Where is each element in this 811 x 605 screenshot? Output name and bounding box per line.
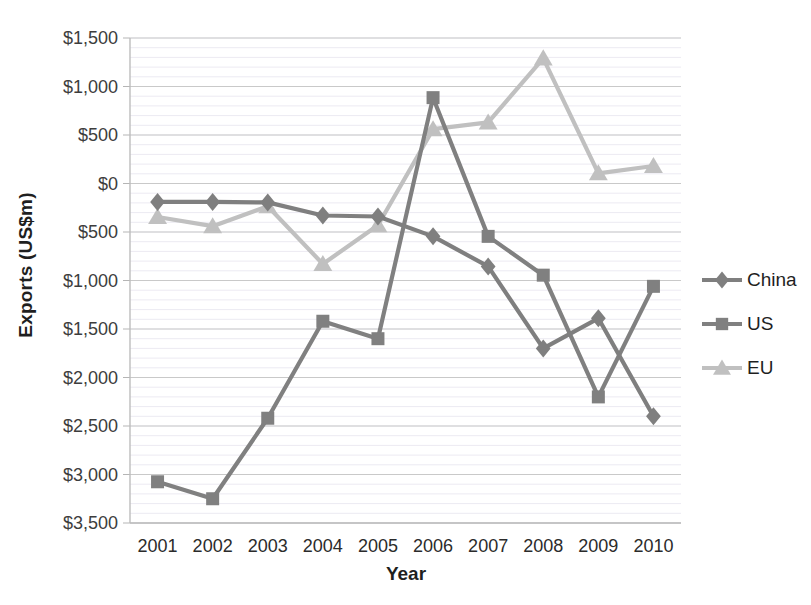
chart-legend: ChinaUSEU xyxy=(700,258,808,390)
x-axis-tick-label: 2008 xyxy=(523,536,563,557)
legend-label-china: China xyxy=(744,269,797,291)
legend-label-us: US xyxy=(744,313,773,335)
line-chart: Exports (US$m) $1,500$1,000$500$0$500$1,… xyxy=(0,0,811,605)
series-line-us xyxy=(158,98,654,499)
x-axis-tick-label: 2007 xyxy=(468,536,508,557)
marker-square xyxy=(371,332,384,345)
x-axis-tick-label: 2005 xyxy=(358,536,398,557)
legend-swatch-us xyxy=(700,313,744,335)
series-line-eu xyxy=(158,58,654,264)
x-axis-title: Year xyxy=(130,563,682,585)
marker-square xyxy=(151,475,164,488)
legend-swatch-china xyxy=(700,269,744,291)
marker-square xyxy=(592,390,605,403)
legend-item-us[interactable]: US xyxy=(700,302,808,346)
marker-diamond xyxy=(150,193,165,211)
major-gridlines xyxy=(123,38,681,523)
x-axis-tick-label: 2003 xyxy=(248,536,288,557)
legend-label-eu: EU xyxy=(744,357,773,379)
x-axis-tick-label: 2010 xyxy=(633,536,673,557)
x-axis-tick-label: 2004 xyxy=(303,536,343,557)
series-eu xyxy=(148,49,663,271)
plot-area xyxy=(0,0,811,605)
legend-marker-icon xyxy=(700,313,744,335)
x-axis-tick-label: 2001 xyxy=(138,536,178,557)
marker-square xyxy=(537,269,550,282)
marker-square xyxy=(716,318,728,330)
series-us xyxy=(151,91,660,505)
marker-square xyxy=(427,91,440,104)
x-axis-tick-label: 2002 xyxy=(193,536,233,557)
marker-diamond xyxy=(715,271,729,288)
marker-diamond xyxy=(205,193,220,211)
marker-square xyxy=(316,315,329,328)
x-axis-tick-label: 2009 xyxy=(578,536,618,557)
legend-item-eu[interactable]: EU xyxy=(700,346,808,390)
legend-item-china[interactable]: China xyxy=(700,258,808,302)
x-axis-tick-labels: 2001200220032004200520062007200820092010 xyxy=(0,528,811,558)
legend-swatch-eu xyxy=(700,357,744,379)
marker-diamond xyxy=(426,227,441,245)
marker-square xyxy=(647,280,660,293)
legend-marker-icon xyxy=(700,269,744,291)
legend-marker-icon xyxy=(700,357,744,379)
x-axis-tick-label: 2006 xyxy=(413,536,453,557)
marker-square xyxy=(261,412,274,425)
marker-square xyxy=(482,230,495,243)
marker-square xyxy=(206,492,219,505)
